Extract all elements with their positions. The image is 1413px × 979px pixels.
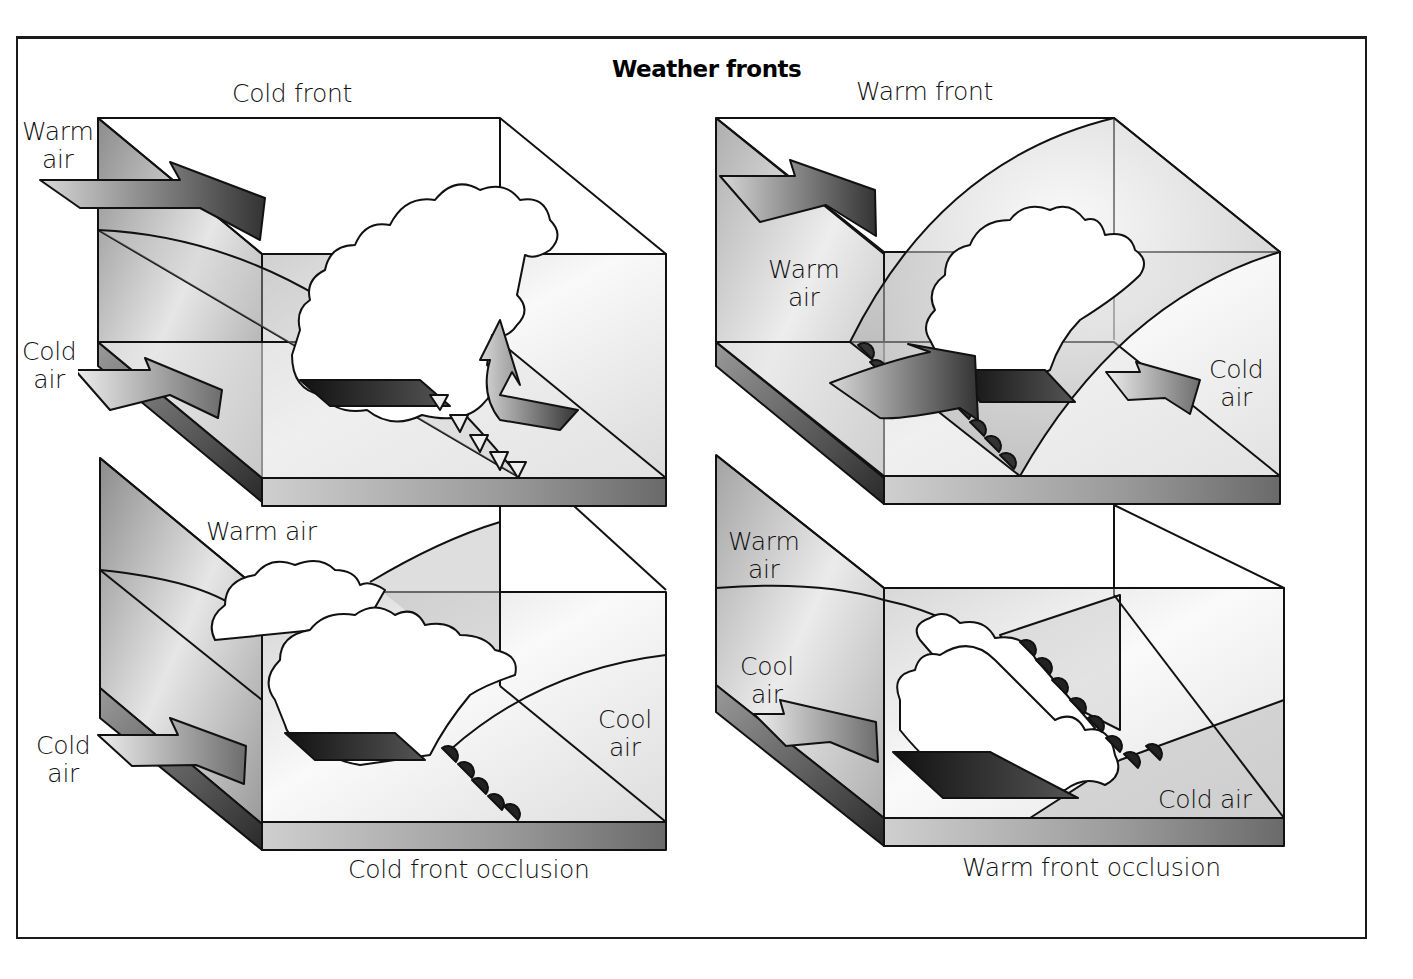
label-warm-air: Warm air — [206, 518, 317, 546]
caption-warm-front: Warm front — [856, 78, 993, 106]
cold-front-block — [40, 118, 666, 506]
label-warm-air: Warm air — [20, 118, 95, 174]
label-cold-air: Cold air — [1158, 786, 1252, 814]
label-warm-air: Warm air — [728, 528, 799, 584]
label-warm-air: Warm air — [768, 256, 839, 312]
caption-cold-front: Cold front — [232, 80, 352, 108]
label-cool-air: Cool air — [598, 706, 652, 762]
label-cool-air: Cool air — [740, 653, 794, 709]
label-cold-air: Cold air — [20, 338, 78, 394]
label-cold-air: Cold air — [1209, 356, 1263, 412]
caption-warm-front-occlusion: Warm front occlusion — [962, 854, 1221, 882]
weather-fronts-illustration — [0, 0, 1413, 979]
cold-front-occlusion-block — [98, 458, 666, 850]
label-cold-air: Cold air — [36, 732, 90, 788]
caption-cold-front-occlusion: Cold front occlusion — [348, 856, 590, 884]
